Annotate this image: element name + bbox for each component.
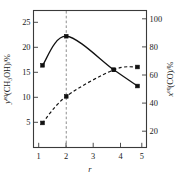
- left-axis-title-open: (CH: [3, 81, 12, 95]
- right-tick-label-20: 20: [150, 127, 158, 136]
- left-axis-tick-labels: 25 20 15 10 5: [22, 18, 30, 127]
- co-conversion-markers: [41, 65, 140, 125]
- right-axis-title: xeq(CO)/%: [165, 61, 175, 97]
- right-tick-label-100: 100: [150, 15, 163, 24]
- data-point-marker: [41, 63, 45, 67]
- methanol-fraction-curve: [43, 36, 138, 86]
- data-point-marker: [64, 34, 68, 38]
- right-tick-label-80: 80: [150, 43, 158, 52]
- left-tick-label-25: 25: [22, 18, 30, 27]
- x-tick-label-1: 1: [37, 152, 41, 161]
- data-point-marker: [136, 84, 140, 88]
- data-point-marker: [64, 95, 68, 99]
- right-axis-tick-labels: 100 80 60 40 20: [150, 15, 163, 136]
- plot-frame: [34, 11, 147, 148]
- x-tick-label-2: 2: [64, 152, 68, 161]
- x-axis-tick-labels: 1 2 3 4 5: [37, 152, 144, 161]
- x-tick-label-4: 4: [118, 152, 123, 161]
- left-axis-title-tail: OH)/%: [3, 54, 12, 78]
- x-axis-title: r: [88, 165, 92, 174]
- right-tick-label-60: 60: [150, 71, 158, 80]
- left-axis-ticks: [34, 22, 39, 122]
- chart-canvas: 25 20 15 10 5 100 80 60 40 20 1 2 3 4 5 …: [0, 0, 181, 180]
- x-tick-label-3: 3: [91, 152, 95, 161]
- left-tick-label-20: 20: [22, 43, 30, 52]
- co-conversion-curve: [43, 67, 138, 123]
- left-axis-title: yeq(CH3OH)/%: [2, 54, 13, 105]
- left-tick-label-15: 15: [22, 68, 30, 77]
- right-tick-label-40: 40: [150, 99, 158, 108]
- x-axis-ticks: [39, 143, 142, 147]
- data-point-marker: [41, 121, 45, 125]
- right-axis-ticks: [142, 19, 147, 131]
- right-axis-title-tail: (CO)/%: [166, 61, 175, 87]
- left-tick-label-5: 5: [26, 118, 30, 127]
- x-tick-label-5: 5: [140, 152, 144, 161]
- chart-figure: 25 20 15 10 5 100 80 60 40 20 1 2 3 4 5 …: [0, 0, 181, 180]
- left-tick-label-10: 10: [22, 93, 30, 102]
- data-point-marker: [136, 65, 140, 69]
- data-point-marker: [112, 68, 116, 72]
